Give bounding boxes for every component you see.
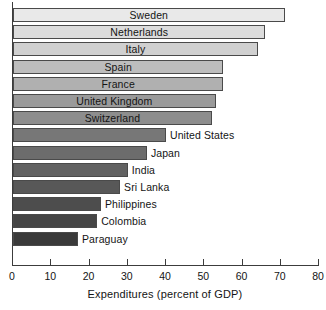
- bar-label: United Kingdom: [13, 94, 216, 108]
- bar-label: United States: [170, 128, 234, 142]
- bar: [13, 146, 147, 160]
- bar-label: Sri Lanka: [124, 180, 169, 194]
- plot-area: SwedenNetherlandsItalySpainFranceUnited …: [0, 0, 326, 266]
- bar: [13, 232, 78, 246]
- x-axis-tick-label: 0: [0, 270, 32, 282]
- bar-chart: SwedenNetherlandsItalySpainFranceUnited …: [0, 0, 326, 310]
- x-axis-tick: [50, 259, 51, 266]
- bar: [13, 197, 101, 211]
- bar-label: Netherlands: [13, 25, 265, 39]
- x-axis-tick-label: 70: [260, 270, 300, 282]
- x-axis-tick: [203, 259, 204, 266]
- bar-label: Japan: [151, 146, 180, 160]
- bar: [13, 163, 128, 177]
- bar-label: India: [132, 163, 155, 177]
- bar-label: Spain: [13, 60, 223, 74]
- bar-label: France: [13, 77, 223, 91]
- bar-label: Italy: [13, 42, 258, 56]
- bar-label: Sweden: [13, 8, 285, 22]
- bar-label: Paraguay: [82, 232, 128, 246]
- x-axis-title: Expenditures (percent of GDP): [12, 288, 318, 300]
- x-axis-tick-label: 30: [107, 270, 147, 282]
- x-axis-tick: [242, 259, 243, 266]
- x-axis-tick: [280, 259, 281, 266]
- x-axis-tick: [165, 259, 166, 266]
- x-axis-tick: [318, 259, 319, 266]
- x-axis-tick: [12, 259, 13, 266]
- x-axis-tick: [89, 259, 90, 266]
- x-axis-tick-label: 10: [30, 270, 70, 282]
- x-axis-tick-label: 50: [183, 270, 223, 282]
- bar-label: Philippines: [105, 197, 157, 211]
- x-axis-tick-label: 40: [145, 270, 185, 282]
- bar: [13, 128, 166, 142]
- bar-label: Colombia: [101, 214, 146, 228]
- x-axis-tick-label: 80: [298, 270, 326, 282]
- bar: [13, 214, 97, 228]
- x-axis-tick-label: 20: [69, 270, 109, 282]
- x-axis-tick: [127, 259, 128, 266]
- x-axis-tick-label: 60: [222, 270, 262, 282]
- bar-label: Switzerland: [13, 111, 212, 125]
- bar: [13, 180, 120, 194]
